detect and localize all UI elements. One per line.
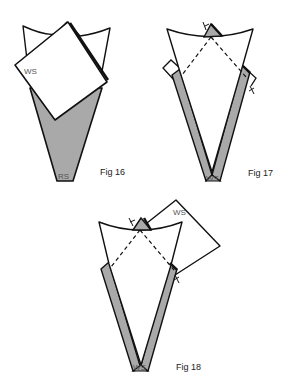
folding-diagram: WS RS Fig 16 WS Fig 17 xyxy=(0,0,294,389)
fig-17-caption: Fig 17 xyxy=(248,168,273,178)
fig-18-caption: Fig 18 xyxy=(176,362,201,372)
ws-bottom-label: WS xyxy=(206,174,219,183)
ws-bottom-label: WS xyxy=(133,363,146,372)
rs-label: RS xyxy=(58,172,69,181)
figure-16: WS RS Fig 16 xyxy=(15,22,125,181)
ws-square-label: WS xyxy=(173,208,186,217)
figure-18: WS WS Fig 18 xyxy=(99,200,220,372)
figure-17: WS Fig 17 xyxy=(163,22,273,183)
pin-mark-top xyxy=(129,218,135,226)
ws-label: WS xyxy=(24,67,37,76)
pin-mark-right xyxy=(249,86,254,94)
fig-16-caption: Fig 16 xyxy=(100,167,125,177)
